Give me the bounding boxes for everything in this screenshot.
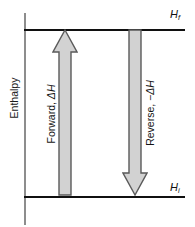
level-subscript-initial: i [178, 186, 180, 195]
enthalpy-axis-line [24, 13, 26, 225]
arrow-label-forward-delta: ΔH [45, 85, 57, 100]
arrow-label-reverse-text: Reverse, [144, 101, 156, 146]
arrow-label-forward-text: Forward, [45, 99, 57, 143]
level-symbol-final: H [170, 8, 178, 20]
arrow-label-forward: Forward, ΔH [45, 58, 57, 170]
level-line-final [24, 29, 185, 31]
arrow-label-reverse-delta: −ΔH [144, 80, 156, 101]
level-line-initial [24, 196, 185, 198]
arrow-label-reverse: Reverse, −ΔH [144, 57, 156, 169]
level-subscript-final: f [178, 13, 180, 22]
level-label-final: Hf [170, 8, 180, 20]
level-symbol-initial: H [170, 181, 178, 193]
axis-title-enthalpy: Enthalpy [8, 61, 20, 135]
enthalpy-diagram: Enthalpy Hf Hi Forward, ΔH Reverse, −ΔH [0, 0, 195, 227]
level-label-initial: Hi [170, 181, 180, 193]
